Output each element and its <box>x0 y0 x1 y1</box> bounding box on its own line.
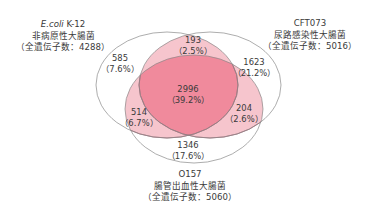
set-o157-name: O157 <box>143 169 237 181</box>
region-value-k12-o157: 514 （6.7%） <box>120 107 157 128</box>
set-o157-total: （全遺伝子数：5060） <box>143 192 237 204</box>
region-value-o157-only: 1346 （17.6%） <box>167 140 210 161</box>
region-value-cft073-o157: 204 （2.6%） <box>225 103 262 124</box>
set-k12-description: 非病原性大腸菌 <box>16 31 110 43</box>
set-cft073-name: CFT073 <box>263 18 357 30</box>
set-o157-description: 腸管出血性大腸菌 <box>143 181 237 193</box>
set-k12-name: E.coli K-12 <box>16 19 110 31</box>
set-label-o157: O157 腸管出血性大腸菌 （全遺伝子数：5060） <box>143 169 237 204</box>
region-value-k12-cft073: 193 （2.5%） <box>174 35 211 56</box>
set-cft073-description: 尿路感染性大腸菌 <box>263 30 357 42</box>
set-cft073-total: （全遺伝子数：5016） <box>263 41 357 53</box>
set-label-k12: E.coli K-12 非病原性大腸菌 （全遺伝子数：4288） <box>16 19 110 54</box>
region-value-cft073-only: 1623 （21.2%） <box>233 57 276 78</box>
set-label-cft073: CFT073 尿路感染性大腸菌 （全遺伝子数：5016） <box>263 18 357 53</box>
region-value-all-three: 2996 （39.2%） <box>167 84 210 105</box>
set-k12-total: （全遺伝子数：4288） <box>16 42 110 54</box>
region-value-k12-only: 585 （7.6%） <box>101 53 138 74</box>
